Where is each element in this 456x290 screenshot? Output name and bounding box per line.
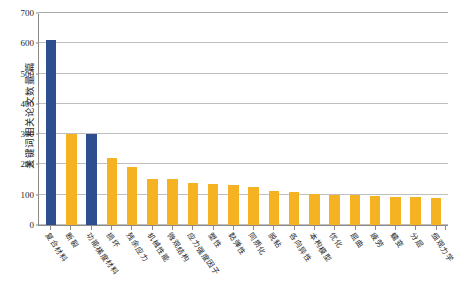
bar-优化[interactable] [329, 195, 340, 225]
y-tick-label-100: 100 [21, 190, 35, 200]
bar-屈曲[interactable] [350, 195, 361, 225]
bar-slot [142, 14, 162, 225]
y-tick-label-400: 400 [21, 99, 35, 109]
bar-应力强度因子[interactable] [188, 183, 199, 225]
x-tick-mark [91, 226, 92, 230]
x-label-slot: 蠕变 [385, 231, 405, 289]
x-tick-mark [192, 226, 193, 230]
x-tick-mark [172, 226, 173, 230]
x-axis-label-优化: 优化 [328, 232, 344, 250]
bar-脱粘[interactable] [269, 191, 280, 225]
x-label-slot: 疲劳 [365, 231, 385, 289]
bar-各向异性[interactable] [289, 192, 300, 225]
x-label-slot: 残余应力 [121, 231, 141, 289]
bar-slot [223, 14, 243, 225]
x-label-slot: 优化 [324, 231, 344, 289]
y-tick-label-0: 0 [30, 220, 35, 230]
bar-功能梯度材料[interactable] [86, 134, 97, 225]
x-label-slot: 脱粘 [263, 231, 283, 289]
x-tick-mark [314, 226, 315, 230]
bar-slot [406, 14, 426, 225]
x-tick-mark-end [445, 226, 446, 230]
x-axis-label-细观力学: 细观力学 [429, 232, 454, 263]
x-label-slot: 各向异性 [284, 231, 304, 289]
x-label-slot: 应力强度因子 [182, 231, 202, 289]
x-label-slot: 细观力学 [426, 231, 446, 289]
x-axis-label-脱粘: 脱粘 [267, 232, 283, 250]
x-axis-label-塑性: 塑性 [206, 232, 222, 250]
bar-同质化[interactable] [248, 187, 259, 225]
bar-slot [82, 14, 102, 225]
x-label-slot: 机械性能 [141, 231, 161, 289]
bar-slot [385, 14, 405, 225]
x-tick-mark [50, 226, 51, 230]
x-tick-mark [131, 226, 132, 230]
bars-group [39, 14, 448, 225]
x-tick-mark [436, 226, 437, 230]
bar-残余应力[interactable] [127, 167, 138, 225]
x-tick-mark [233, 226, 234, 230]
x-tick-mark [375, 226, 376, 230]
x-axis-label-损坏: 损坏 [105, 232, 121, 250]
bar-蠕变[interactable] [390, 197, 401, 225]
y-tick-label-200: 200 [21, 159, 35, 169]
x-axis-label-蠕变: 蠕变 [389, 232, 405, 250]
x-axis-label-屈曲: 屈曲 [348, 232, 364, 250]
x-label-slot: 复合材料 [40, 231, 60, 289]
x-label-slot: 功能梯度材料 [81, 231, 101, 289]
bar-本构模型[interactable] [309, 194, 320, 225]
bar-slot [183, 14, 203, 225]
x-tick-mark [273, 226, 274, 230]
bar-slot [122, 14, 142, 225]
x-tick-mark [152, 226, 153, 230]
x-tick-mark [253, 226, 254, 230]
x-label-slot: 分层 [405, 231, 425, 289]
bar-slot [325, 14, 345, 225]
bar-slot [244, 14, 264, 225]
x-label-slot: 本构模型 [304, 231, 324, 289]
bar-机械性能[interactable] [147, 179, 158, 225]
x-label-slot: 同质化 [243, 231, 263, 289]
bar-微观结构[interactable] [167, 179, 178, 225]
x-axis-label-分层: 分层 [409, 232, 425, 250]
x-label-slot: 断裂 [60, 231, 80, 289]
x-tick-mark [213, 226, 214, 230]
bar-slot [426, 14, 446, 225]
bar-slot [41, 14, 61, 225]
bar-分层[interactable] [410, 197, 421, 225]
x-axis-label-断裂: 断裂 [64, 232, 80, 250]
x-tick-mark [355, 226, 356, 230]
x-tick-mark [334, 226, 335, 230]
bar-复合材料[interactable] [46, 40, 57, 225]
bar-slot [61, 14, 81, 225]
x-tick-mark [415, 226, 416, 230]
x-label-slot: 塑性 [202, 231, 222, 289]
y-axis-title: 关键词相关论文数量/篇 [22, 30, 36, 200]
bar-slot [163, 14, 183, 225]
bar-chart: 关键词相关论文数量/篇 0100200300400500600700 复合材料断… [0, 0, 456, 290]
gridline-700: 700 [39, 12, 448, 13]
x-tick-mark [294, 226, 295, 230]
plot-area: 0100200300400500600700 [38, 14, 448, 226]
x-axis-label-疲劳: 疲劳 [368, 232, 384, 250]
bar-塑性[interactable] [208, 184, 219, 225]
bar-slot [365, 14, 385, 225]
y-tick-label-600: 600 [21, 38, 35, 48]
bar-损坏[interactable] [107, 158, 118, 225]
x-label-slot: 黏弹性 [223, 231, 243, 289]
bar-黏弹性[interactable] [228, 185, 239, 225]
x-tick-mark [70, 226, 71, 230]
bar-slot [102, 14, 122, 225]
bar-slot [284, 14, 304, 225]
x-axis-labels: 复合材料断裂功能梯度材料损坏残余应力机械性能微观结构应力强度因子塑性黏弹性同质化… [38, 231, 448, 289]
x-tick-mark [395, 226, 396, 230]
y-tick-label-300: 300 [21, 129, 35, 139]
x-label-slot: 微观结构 [162, 231, 182, 289]
y-tick-label-700: 700 [21, 8, 35, 18]
bar-断裂[interactable] [66, 134, 77, 225]
bar-细观力学[interactable] [431, 198, 442, 225]
bar-slot [264, 14, 284, 225]
bar-slot [304, 14, 324, 225]
bar-slot [203, 14, 223, 225]
bar-疲劳[interactable] [370, 196, 381, 225]
